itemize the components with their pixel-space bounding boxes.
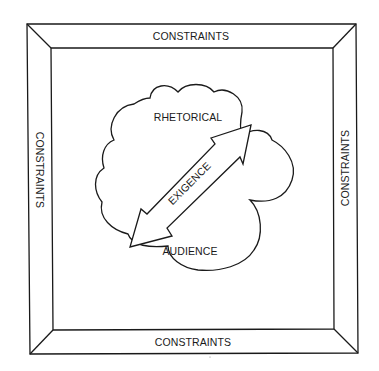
constraints-label-left: CONSTRAINTS xyxy=(34,132,46,208)
constraints-label-top: CONSTRAINTS xyxy=(153,30,229,42)
rhetorical-situation-diagram: CONSTRAINTS CONSTRAINTS CONSTRAINTS CONS… xyxy=(0,0,379,371)
frame-bevel-bottom-right xyxy=(334,329,358,353)
audience-label: AUDIENCE xyxy=(162,245,217,257)
frame-bevel-top-right xyxy=(333,24,356,48)
scan-speck xyxy=(209,356,210,357)
frame-bevel-bottom-left xyxy=(30,330,53,354)
frame-bevel-top-left xyxy=(27,24,51,48)
constraints-label-right: CONSTRAINTS xyxy=(339,130,351,206)
constraints-label-bottom: CONSTRAINTS xyxy=(155,336,231,348)
rhetorical-label: RHETORICAL xyxy=(154,111,223,123)
